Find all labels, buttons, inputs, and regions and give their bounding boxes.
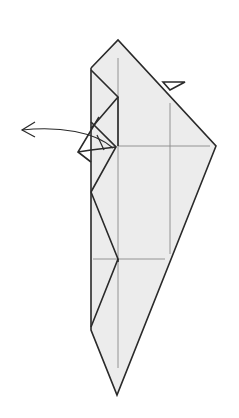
origami-model: [0, 0, 239, 418]
paper-body: [91, 40, 216, 395]
small-flap: [163, 82, 185, 90]
origami-diagram: [0, 0, 239, 418]
